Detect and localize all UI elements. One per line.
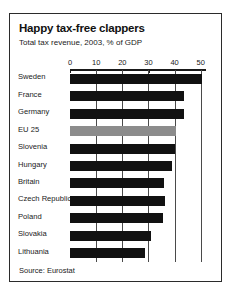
bar bbox=[70, 196, 165, 206]
category-label: Germany bbox=[18, 107, 68, 116]
chart-source: Source: Eurostat bbox=[19, 266, 75, 275]
bar bbox=[70, 231, 151, 241]
category-label: France bbox=[18, 90, 68, 99]
x-tick-label: 20 bbox=[118, 58, 126, 67]
category-label: Slovakia bbox=[18, 229, 68, 238]
bar bbox=[70, 213, 163, 223]
chart-figure: Happy tax-free clappers Total tax revenu… bbox=[9, 13, 222, 282]
bar bbox=[70, 248, 145, 258]
bar bbox=[70, 109, 184, 119]
bar bbox=[70, 161, 172, 171]
category-label: Hungary bbox=[18, 160, 68, 169]
x-tick-label: 30 bbox=[144, 58, 152, 67]
x-tick-label: 10 bbox=[92, 58, 100, 67]
chart-title: Happy tax-free clappers bbox=[19, 22, 145, 34]
x-tick-label: 40 bbox=[170, 58, 178, 67]
bar bbox=[70, 178, 164, 188]
chart-subtitle: Total tax revenue, 2003, % of GDP bbox=[19, 38, 142, 47]
bar bbox=[70, 144, 175, 154]
bar bbox=[70, 126, 176, 136]
category-label: Poland bbox=[18, 212, 68, 221]
category-label: Czech Republic bbox=[18, 194, 68, 203]
plot-area: SwedenFranceGermanyEU 25SloveniaHungaryB… bbox=[70, 70, 206, 262]
category-label: Slovenia bbox=[18, 142, 68, 151]
gridline bbox=[201, 70, 202, 262]
bar bbox=[70, 74, 202, 84]
category-label: Sweden bbox=[18, 72, 68, 81]
category-label: Lithuania bbox=[18, 247, 68, 256]
bar bbox=[70, 91, 184, 101]
category-label: Britain bbox=[18, 177, 68, 186]
category-label: EU 25 bbox=[18, 125, 68, 134]
x-tick-label: 0 bbox=[68, 58, 72, 67]
x-tick-label: 50 bbox=[197, 58, 205, 67]
